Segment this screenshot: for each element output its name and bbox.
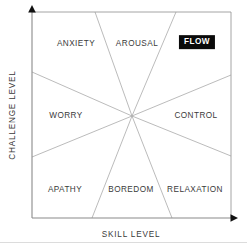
arrow-up-icon [28,5,36,13]
zone-label-relaxation: RELAXATION [167,186,223,194]
y-axis-title: CHALLENGE LEVEL [9,70,17,159]
flow-model-diagram: ANXIETY AROUSAL FLOW WORRY CONTROL APATH… [0,0,247,249]
zone-label-apathy: APATHY [48,186,82,194]
zone-label-control: CONTROL [174,112,217,120]
zone-label-flow: FLOW [179,35,215,49]
zone-label-boredom: BOREDOM [108,186,153,194]
zone-label-anxiety: ANXIETY [57,40,95,48]
zone-label-arousal: AROUSAL [116,40,158,48]
arrow-right-icon [231,214,239,222]
x-axis-title: SKILL LEVEL [102,231,161,239]
zone-label-worry: WORRY [49,112,83,120]
